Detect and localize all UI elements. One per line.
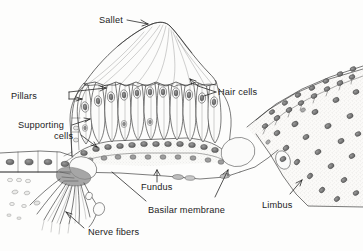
label-nerve-fibers: Nerve fibers <box>88 227 140 237</box>
diagram-canvas: Sallet Hair cells Pillars Supporting cel… <box>0 0 363 251</box>
anatomical-figure: Sallet Hair cells Pillars Supporting cel… <box>0 0 363 251</box>
membrane-cell <box>172 174 183 179</box>
label-sallet: Sallet <box>99 15 123 25</box>
epithelial-nucleus <box>25 159 33 165</box>
label-hair-cells: Hair cells <box>218 87 258 97</box>
label-supporting-cells-line2: cells <box>54 131 73 141</box>
label-supporting-cells-line1: Supporting <box>18 120 64 130</box>
epithelial-nucleus <box>6 159 14 165</box>
pillar-nucleus <box>73 138 78 142</box>
page-bleed-text <box>18 242 21 248</box>
label-basilar-membrane: Basilar membrane <box>148 205 225 215</box>
membrane-cell <box>185 176 195 181</box>
label-fundus: Fundus <box>141 182 173 192</box>
label-limbus: Limbus <box>262 200 293 210</box>
pillar-nucleus <box>73 126 78 130</box>
label-pillars: Pillars <box>11 91 37 101</box>
epithelial-nucleus <box>44 159 52 165</box>
